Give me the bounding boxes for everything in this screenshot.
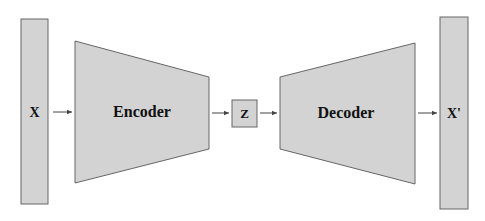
encoder-label: Encoder <box>113 103 171 120</box>
latent-label: Z <box>240 106 249 121</box>
input-block: X <box>21 19 48 204</box>
autoencoder-diagram: X Encoder Z Decoder X' <box>0 0 485 221</box>
output-label: X' <box>447 106 461 121</box>
output-block: X' <box>440 17 468 209</box>
latent-block: Z <box>232 100 257 127</box>
decoder-label: Decoder <box>318 104 375 121</box>
decoder-block: Decoder <box>280 43 415 184</box>
input-label: X <box>29 105 39 120</box>
encoder-block: Encoder <box>75 41 209 183</box>
